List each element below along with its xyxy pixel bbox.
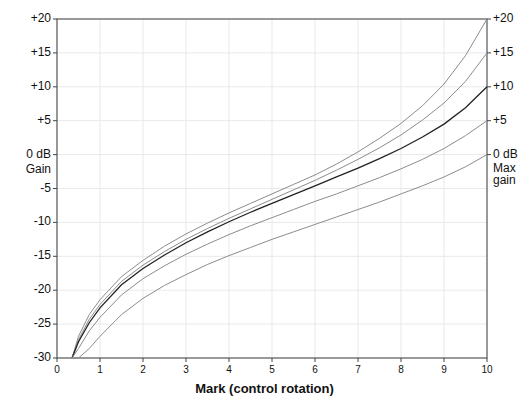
y-axis-tick-label: -20 bbox=[34, 283, 51, 296]
x-axis-tick-label: 1 bbox=[90, 364, 110, 375]
plot-area bbox=[0, 0, 529, 410]
y-axis-tick-label: -5 bbox=[40, 182, 51, 195]
y-axis-tick-label: -30 bbox=[34, 351, 51, 364]
y-axis-tick-label-right: +5 bbox=[493, 114, 507, 127]
x-axis-tick-label: 8 bbox=[391, 364, 411, 375]
x-axis-tick-label: 9 bbox=[434, 364, 454, 375]
x-axis-tick-label: 2 bbox=[133, 364, 153, 375]
x-axis-tick-label: 3 bbox=[176, 364, 196, 375]
right-axis-title: Max gain bbox=[493, 162, 516, 186]
y-axis-title: Gain bbox=[26, 162, 51, 176]
y-axis-tick-label-right: +15 bbox=[493, 46, 513, 59]
y-axis-tick-label: -15 bbox=[34, 249, 51, 262]
x-axis-tick-label: 0 bbox=[47, 364, 67, 375]
x-axis-tick-label: 4 bbox=[219, 364, 239, 375]
y-axis-tick-label: +20 bbox=[31, 12, 51, 25]
x-axis-tick-label: 10 bbox=[477, 364, 497, 375]
y-axis-tick-label-right: +10 bbox=[493, 80, 513, 93]
gain-curve-4 bbox=[72, 121, 487, 358]
x-axis-tick-label: 5 bbox=[262, 364, 282, 375]
y-axis-tick-label: +15 bbox=[31, 46, 51, 59]
right-axis-title-line1: Max bbox=[493, 162, 516, 174]
y-axis-tick-label: 0 dB bbox=[26, 148, 51, 161]
gain-curve-2 bbox=[72, 53, 487, 358]
x-axis-title: Mark (control rotation) bbox=[0, 381, 529, 396]
gain-curve-chart: +20+15+10+50 dB-5-10-15-20-25-30 +20+15+… bbox=[0, 0, 529, 410]
y-axis-tick-label: -25 bbox=[34, 317, 51, 330]
right-axis-title-line2: gain bbox=[493, 174, 516, 186]
y-axis-tick-label-right: +20 bbox=[493, 12, 513, 25]
y-axis-tick-label: +5 bbox=[37, 114, 51, 127]
y-axis-tick-label: -10 bbox=[34, 215, 51, 228]
y-axis-tick-label: +10 bbox=[31, 80, 51, 93]
y-axis-tick-label-right: 0 dB bbox=[493, 148, 518, 161]
x-axis-tick-label: 7 bbox=[348, 364, 368, 375]
x-axis-tick-label: 6 bbox=[305, 364, 325, 375]
